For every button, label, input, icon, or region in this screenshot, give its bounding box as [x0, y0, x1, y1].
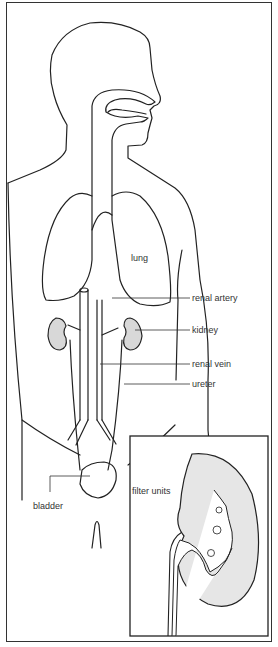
nasal-cavity	[108, 109, 146, 114]
torso-line-left	[22, 420, 80, 455]
inset-calyx-1	[216, 507, 222, 513]
leader-bladder	[50, 476, 90, 492]
label-bladder: bladder	[33, 501, 63, 511]
kidney-right	[124, 318, 142, 350]
label-renal-vein: renal vein	[192, 359, 231, 369]
kidney-left	[48, 318, 66, 350]
left-back-outline	[8, 183, 22, 500]
renal-vein-right	[102, 328, 118, 335]
label-lung: lung	[131, 253, 148, 263]
label-ureter: ureter	[192, 379, 216, 389]
vena-cava	[97, 300, 102, 420]
inset-calyx-2	[213, 526, 221, 534]
bladder-shape	[80, 462, 116, 498]
label-renal-artery: renal artery	[192, 293, 238, 303]
label-filter-units: filter units	[132, 486, 171, 496]
ureter-right	[108, 340, 122, 470]
torso-side-right	[176, 250, 182, 380]
legs-divide	[92, 522, 101, 549]
renal-artery-left	[68, 325, 80, 330]
inset-calyx-3	[208, 550, 215, 557]
aorta	[80, 290, 88, 420]
heart-area	[92, 212, 112, 230]
label-kidney: kidney	[192, 325, 218, 335]
lung-right	[112, 192, 171, 306]
body-diagram	[0, 0, 278, 647]
lung-left	[42, 193, 92, 300]
